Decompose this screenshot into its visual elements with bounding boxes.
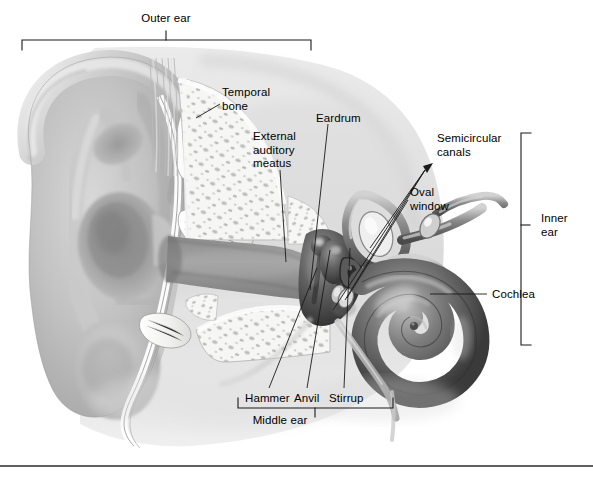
label-semicircular-canals: Semicircular canals <box>437 132 519 159</box>
label-anvil: Anvil <box>294 392 328 406</box>
label-stirrup: Stirrup <box>329 392 371 406</box>
label-external-auditory-meatus: External auditory meatus <box>253 130 325 171</box>
label-oval-window: Oval window <box>410 186 470 213</box>
label-hammer: Hammer <box>245 392 299 406</box>
region-label-inner-ear: Inner ear <box>541 212 587 239</box>
label-eardrum: Eardrum <box>316 112 376 126</box>
inner-ear-bracket <box>521 133 531 345</box>
ear-anatomy-figure: Outer ear Middle ear Inner ear Temporal … <box>0 0 593 477</box>
region-label-outer-ear: Outer ear <box>131 12 201 26</box>
region-label-middle-ear: Middle ear <box>245 414 315 428</box>
label-cochlea: Cochlea <box>492 288 552 302</box>
label-temporal-bone: Temporal bone <box>222 86 292 113</box>
